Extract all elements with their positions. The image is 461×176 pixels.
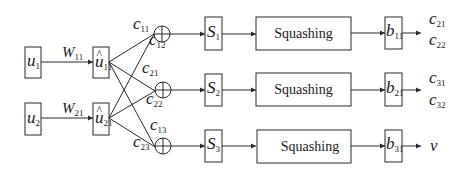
weighted-sum-node-s2: S2 [205, 74, 222, 106]
coupling-label-c13: c13 [150, 115, 167, 135]
output-label-c32: c32 [429, 90, 446, 110]
output-label-v: v [430, 136, 438, 155]
output-label-c21: c21 [429, 9, 446, 29]
svg-text:Squashing: Squashing [274, 82, 332, 97]
input-node-u1: u1 [25, 47, 41, 78]
prediction-node-u21: ^ u21 [93, 103, 113, 135]
coupling-label-c23: c23 [133, 132, 150, 152]
input-node-u2: u2 [25, 103, 41, 135]
sum-node-2 [155, 82, 171, 98]
sum-node-1 [154, 26, 170, 42]
weighted-sum-node-s3: S3 [205, 130, 222, 162]
output-label-c31: c31 [429, 68, 446, 88]
logit-node-b11: b11 [385, 17, 403, 49]
weighted-sum-node-s1: S1 [205, 17, 222, 50]
coupling-label-c21: c21 [142, 58, 159, 78]
coupling-label-c11: c11 [133, 14, 149, 34]
svg-text:Squashing: Squashing [281, 139, 339, 154]
squashing-block-1: Squashing [256, 17, 351, 50]
sum-node-3 [155, 138, 171, 154]
logit-node-b31: b31 [385, 130, 404, 162]
capsule-routing-diagram: u1 u2 W11 W21 ^ u11 ^ u21 c11 c12 c21 c2… [0, 0, 461, 176]
squashing-block-2: Squashing [256, 73, 351, 106]
svg-text:Squashing: Squashing [274, 26, 332, 41]
weight-label-w11: W11 [62, 44, 83, 62]
output-label-c22: c22 [429, 30, 446, 50]
squashing-block-3: Squashing [257, 130, 351, 163]
weight-label-w21: W21 [62, 100, 84, 118]
logit-node-b21: b21 [385, 73, 404, 106]
